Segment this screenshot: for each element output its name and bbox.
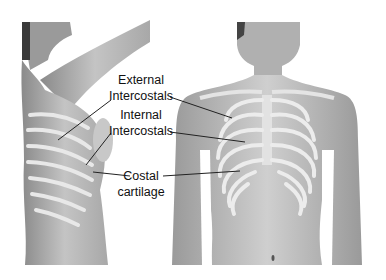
torso-illustration [0,0,386,280]
side-view-torso [21,20,150,265]
costal-cartilage-label: Costal cartilage [116,168,166,200]
front-view-torso [172,22,362,265]
external-intercostals-label: External Intercostals [108,72,174,104]
anatomy-figure: External Intercostals Internal Intercost… [0,0,386,280]
internal-intercostals-label: Internal Intercostals [108,107,174,139]
